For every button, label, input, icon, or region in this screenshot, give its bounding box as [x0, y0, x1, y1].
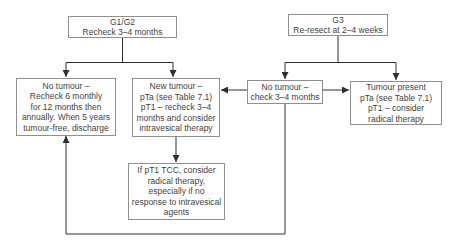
box-g3: G3 Re-resect at 2–4 weeks — [288, 14, 388, 36]
box-no-tumour-g3: No tumour – check 3–4 months — [247, 80, 323, 104]
box-no-tumour-g3-line: check 3–4 months — [251, 92, 320, 103]
box-no-tumour-g1g2-line: tumour-free, discharge — [23, 123, 109, 134]
box-no-tumour-g1g2: No tumour – Recheck 6 monthly for 12 mon… — [16, 78, 116, 136]
box-tumour-present-line: pTa (see Table 7.1) — [360, 93, 432, 104]
box-new-tumour: New tumour – pTa (see Table 7.1) pT1 – r… — [132, 78, 220, 137]
box-no-tumour-g1g2-line: No tumour – — [43, 81, 90, 92]
connector-g3-split — [285, 36, 396, 63]
box-new-tumour-line: pT1 – recheck 3–4 — [141, 102, 211, 113]
box-new-tumour-line: intravesical therapy — [139, 123, 212, 134]
box-tumour-present-line: pT1 – consider — [368, 103, 424, 114]
box-g1g2-line: Recheck 3–4 months — [83, 27, 163, 38]
box-no-tumour-g3-line: No tumour – — [262, 82, 309, 93]
box-new-tumour-line: New tumour – — [150, 81, 203, 92]
box-tumour-present: Tumour present pTa (see Table 7.1) pT1 –… — [350, 81, 442, 125]
box-pt1-tcc-line: If pT1 TCC, consider — [137, 165, 215, 176]
box-g1g2-line: G1/G2 — [110, 17, 135, 28]
box-pt1-tcc-line: especially if no — [149, 186, 205, 197]
box-no-tumour-g1g2-line: for 12 months then — [31, 102, 102, 113]
box-tumour-present-line: Tumour present — [366, 82, 426, 93]
box-no-tumour-g1g2-line: Recheck 6 monthly — [30, 91, 102, 102]
box-pt1-tcc-line: radical therapy, — [148, 176, 205, 187]
connector-g1g2-split — [66, 37, 173, 63]
box-new-tumour-line: pTa (see Table 7.1) — [140, 92, 212, 103]
flowchart-canvas: G1/G2 Recheck 3–4 months G3 Re-resect at… — [0, 0, 449, 252]
box-g3-line: G3 — [332, 15, 343, 26]
box-pt1-tcc-line: response to intravesical — [132, 197, 221, 208]
box-no-tumour-g1g2-line: annually. When 5 years — [22, 112, 110, 123]
box-g1g2: G1/G2 Recheck 3–4 months — [68, 16, 177, 38]
box-tumour-present-line: radical therapy — [368, 114, 424, 125]
box-pt1-tcc: If pT1 TCC, consider radical therapy, es… — [128, 163, 225, 220]
box-pt1-tcc-line: agents — [164, 207, 190, 218]
box-g3-line: Re-resect at 2–4 weeks — [293, 25, 382, 36]
box-new-tumour-line: months and consider — [137, 113, 216, 124]
